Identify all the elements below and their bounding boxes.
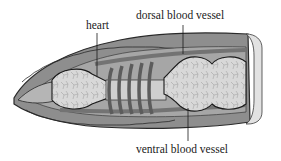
ventral-blood-vessel-label: ventral blood vessel bbox=[136, 144, 228, 156]
esophagus bbox=[106, 80, 166, 100]
gut-crop-gizzard bbox=[164, 57, 246, 111]
heart-label: heart bbox=[86, 20, 109, 32]
earthworm-diagram: heart dorsal blood vessel ventral blood … bbox=[0, 0, 281, 161]
dorsal-blood-vessel-label: dorsal blood vessel bbox=[136, 10, 224, 22]
earthworm-illustration bbox=[0, 0, 281, 161]
